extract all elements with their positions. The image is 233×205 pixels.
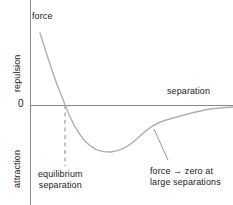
force-axis-label: force [32,11,53,22]
separation-axis-label: separation [167,86,210,97]
force-separation-diagram: force separation 0 repulsion attraction … [0,0,233,205]
farfield-leader-line [154,129,168,160]
farfield-annotation-line-2: large separations [150,177,221,188]
equilibrium-annotation-line-1: equilibrium [38,169,83,180]
farfield-annotation: force → zero at large separations [150,166,221,187]
attraction-axis-label: attraction [12,150,22,188]
farfield-annotation-line-1: force → zero at [150,166,221,177]
equilibrium-separation-annotation: equilibrium separation [38,169,83,190]
zero-tick-label: 0 [18,99,24,110]
equilibrium-annotation-line-2: separation [38,180,83,191]
repulsion-axis-label: repulsion [12,55,22,92]
